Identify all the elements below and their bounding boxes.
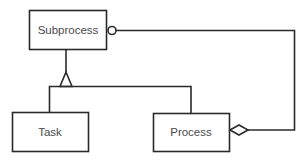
circle-icon	[108, 27, 116, 35]
node-process[interactable]: Process	[154, 114, 230, 152]
triangle-icon	[60, 72, 72, 87]
diamond-icon	[230, 125, 248, 135]
subprocess-label: Subprocess	[38, 24, 99, 36]
task-label: Task	[38, 126, 62, 138]
inheritance-branch	[50, 87, 192, 114]
node-task[interactable]: Task	[13, 113, 89, 152]
inheritance-connector	[50, 50, 192, 114]
node-subprocess[interactable]: Subprocess	[30, 11, 107, 50]
process-label: Process	[170, 126, 212, 138]
diagram-canvas: Subprocess Task Process	[0, 0, 306, 163]
